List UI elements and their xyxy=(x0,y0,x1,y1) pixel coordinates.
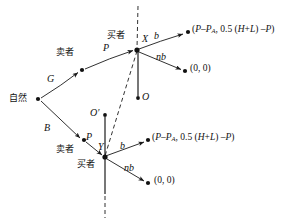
edge-label-B: B xyxy=(44,123,50,133)
payoff-bottom-buy-close: ) xyxy=(231,132,234,142)
payoff-top-notbuy: (0, 0) xyxy=(190,64,211,74)
payoff-bottom-buy-minus2: – xyxy=(218,132,225,142)
buyer-bottom-label: 买者 xyxy=(77,160,95,169)
edge-label-G: G xyxy=(47,74,54,84)
buyer-y-node-dot xyxy=(102,154,107,159)
node-label-O: O xyxy=(142,92,149,102)
payoff-top-buy-coef: 0.5 xyxy=(220,24,232,34)
edge-label-nb-top: nb xyxy=(156,52,166,62)
edge-label-P-top: P xyxy=(103,43,109,53)
payoff-top-buy-minus2: – xyxy=(258,24,265,34)
nature-node-dot xyxy=(36,97,40,101)
edge-label-b-bottom: b xyxy=(120,141,125,151)
node-label-O-prime: O′ xyxy=(90,108,99,118)
seller-top-label: 卖者 xyxy=(56,48,74,57)
payoff-top-buy-H: H xyxy=(238,24,245,34)
nature-label: 自然 xyxy=(9,94,27,103)
terminal-top-low-dot xyxy=(183,69,187,73)
terminal-bottom-low-dot xyxy=(146,181,150,185)
terminal-bottom-high-dot xyxy=(146,138,150,142)
seller-top-node-dot xyxy=(80,68,84,72)
payoff-top-buy-close: ) xyxy=(271,24,274,34)
figure-canvas: 自然 卖者 买者 卖者 买者 G B P P b nb b nb X Y O O… xyxy=(0,0,307,221)
payoff-bottom-buy-H: H xyxy=(198,132,205,142)
information-set-dashed-upper xyxy=(137,6,138,49)
o-prime-node-dot xyxy=(103,113,107,117)
edge-label-nb-bottom: nb xyxy=(124,163,134,173)
edge-buyer-y-buy xyxy=(107,142,144,156)
buyer-x-node-dot xyxy=(134,47,139,52)
edge-label-b-top: b xyxy=(154,31,159,41)
edge-seller-top-to-buyer-x xyxy=(85,51,133,70)
node-label-Y: Y xyxy=(98,142,104,152)
payoff-bottom-notbuy: (0, 0) xyxy=(154,176,175,186)
seller-bottom-label: 卖者 xyxy=(56,145,74,154)
payoff-bottom-buy: (P–PA, 0.5 (H+L) –P) xyxy=(152,133,235,143)
buyer-top-label: 买者 xyxy=(107,31,125,40)
node-label-X: X xyxy=(142,34,148,44)
payoff-top-buy: (P–PA, 0.5 (H+L) –P) xyxy=(192,25,275,35)
payoff-bottom-buy-coef: 0.5 xyxy=(180,132,192,142)
terminal-top-high-dot xyxy=(186,30,190,34)
o-top-node-dot xyxy=(136,96,140,100)
edge-label-P-bottom: P xyxy=(86,132,92,142)
